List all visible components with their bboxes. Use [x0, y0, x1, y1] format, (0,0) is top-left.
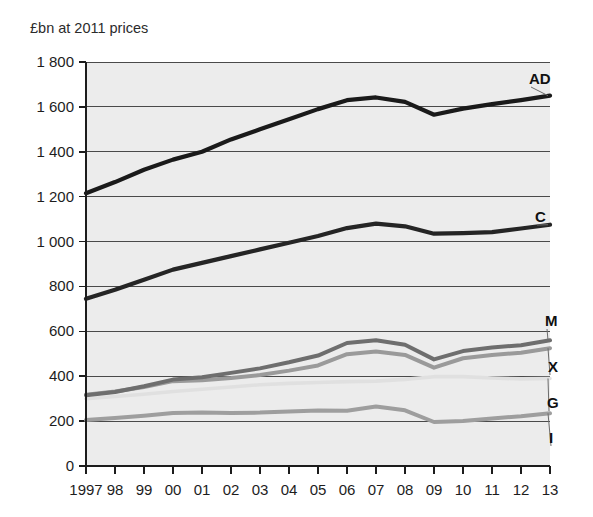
x-axis-tick-labels: 199798990001020304050607080910111213	[69, 481, 558, 498]
x-tick-label: 99	[136, 481, 153, 498]
x-tick-label: 07	[368, 481, 385, 498]
series-label-m: M	[545, 312, 558, 329]
y-tick-label: 400	[49, 367, 74, 384]
y-tick-label: 1 800	[36, 53, 74, 70]
y-tick-label: 0	[66, 457, 74, 474]
x-tick-label: 00	[165, 481, 182, 498]
chart-title: £bn at 2011 prices	[30, 20, 148, 36]
x-tick-label: 02	[223, 481, 240, 498]
y-tick-label: 1 200	[36, 188, 74, 205]
x-tick-label: 05	[310, 481, 327, 498]
x-tick-label: 03	[252, 481, 269, 498]
y-tick-label: 1 000	[36, 233, 74, 250]
series-label-c: C	[535, 208, 546, 225]
line-chart: £bn at 2011 prices 02004006008001 0001 2…	[0, 0, 593, 517]
series-label-i: I	[549, 429, 553, 446]
x-tick-label: 09	[426, 481, 443, 498]
series-label-x: X	[548, 358, 558, 375]
x-tick-label: 08	[397, 481, 414, 498]
y-tick-label: 600	[49, 322, 74, 339]
chart-container: £bn at 2011 prices 02004006008001 0001 2…	[0, 0, 593, 517]
series-label-g: G	[547, 394, 559, 411]
plot-area-background	[86, 62, 550, 466]
x-tick-label: 11	[484, 481, 500, 498]
x-tick-label: 12	[513, 481, 530, 498]
x-tick-label: 1997	[69, 481, 102, 498]
x-tick-label: 13	[542, 481, 559, 498]
x-tick-label: 06	[339, 481, 356, 498]
y-tick-label: 1 400	[36, 143, 74, 160]
y-tick-label: 200	[49, 412, 74, 429]
y-tick-label: 800	[49, 277, 74, 294]
x-tick-label: 10	[455, 481, 472, 498]
x-tick-label: 01	[194, 481, 211, 498]
x-tick-label: 04	[281, 481, 298, 498]
series-label-ad: AD	[529, 70, 551, 87]
x-tick-label: 98	[107, 481, 124, 498]
y-tick-label: 1 600	[36, 98, 74, 115]
